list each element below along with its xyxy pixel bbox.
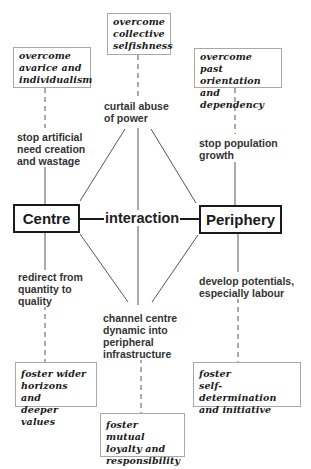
label-curtail-abuse: curtail abuse of power	[104, 100, 169, 124]
label-redirect-quantity-quality: redirect from quantity to quality	[18, 271, 83, 307]
label-stop-artificial-need: stop artificial need creation and wastag…	[17, 131, 85, 167]
node-periphery: Periphery	[199, 205, 282, 234]
label-stop-population-growth: stop population growth	[199, 137, 278, 161]
box-overcome-avarice: overcome avarice and individualism	[13, 47, 91, 88]
label-develop-potentials: develop potentials, especially labour	[199, 275, 294, 299]
node-centre: Centre	[13, 204, 80, 233]
box-foster-wider-horizons: foster wider horizons and deeper values	[15, 362, 97, 407]
node-interaction: interaction	[104, 210, 180, 226]
box-overcome-collective-selfishness: overcome collective selfishness	[107, 13, 171, 55]
box-overcome-past-orientation: overcome past orientation and dependency	[194, 48, 282, 88]
box-foster-mutual-loyalty: foster mutual loyalty and responsibility	[100, 413, 185, 457]
box-foster-self-determination: foster self-determination and initiative	[193, 362, 301, 407]
label-channel-centre-dynamic: channel centre dynamic into peripheral i…	[103, 312, 177, 360]
